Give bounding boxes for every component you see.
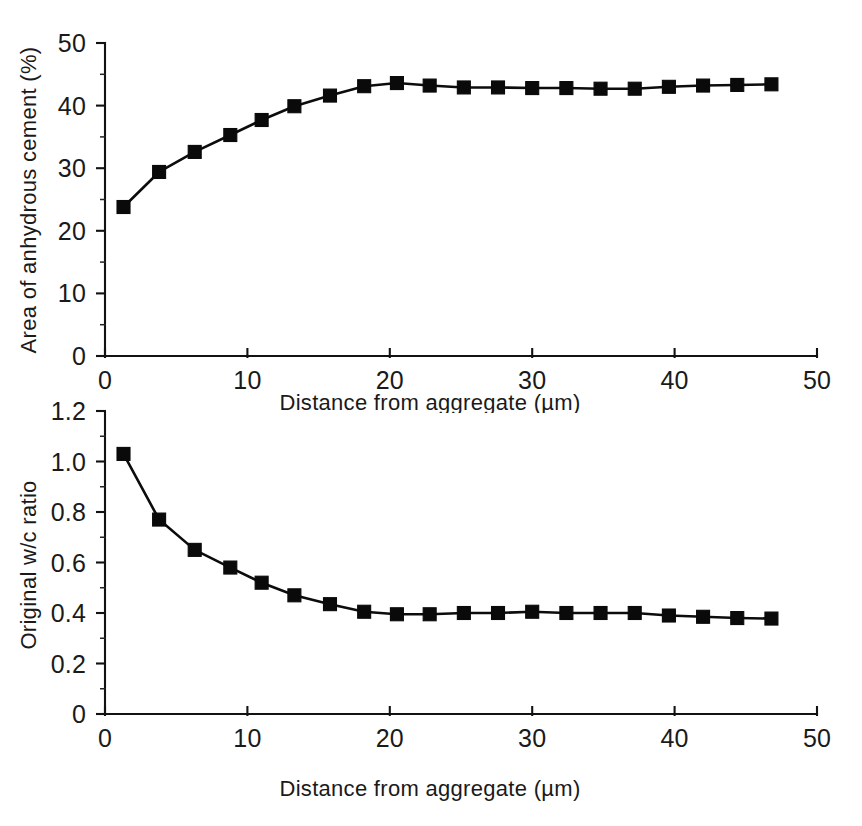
chart-panel-top: 01020304050 01020304050 Area of anhydrou… xyxy=(0,0,862,413)
data-point-marker xyxy=(224,129,237,142)
data-point-marker xyxy=(288,100,301,113)
data-point-marker xyxy=(255,114,268,127)
data-point-marker xyxy=(323,598,336,611)
data-point-marker xyxy=(117,447,130,460)
data-point-marker xyxy=(358,605,371,618)
data-point-marker xyxy=(697,79,710,92)
x-tick-label: 20 xyxy=(376,724,404,752)
y-tick-label: 20 xyxy=(58,217,86,245)
data-point-marker xyxy=(390,608,403,621)
data-point-marker xyxy=(153,165,166,178)
y-tick-label: 30 xyxy=(58,154,86,182)
data-line xyxy=(124,83,772,207)
y-tick-label: 0.2 xyxy=(51,650,86,678)
data-point-marker xyxy=(560,607,573,620)
data-point-marker xyxy=(731,78,744,91)
data-point-marker xyxy=(153,513,166,526)
data-point-marker xyxy=(697,610,710,623)
y-tick-label: 50 xyxy=(58,29,86,57)
y-axis-bottom: 00.20.40.60.81.01.2 xyxy=(51,400,106,728)
x-axis-title: Distance from aggregate (µm) xyxy=(279,776,580,801)
data-point-marker xyxy=(492,81,505,94)
data-point-marker xyxy=(765,612,778,625)
x-tick-label: 0 xyxy=(98,366,112,394)
data-point-marker xyxy=(765,78,778,91)
x-axis-bottom: 01020304050 xyxy=(98,706,831,752)
data-point-marker xyxy=(526,605,539,618)
y-tick-label: 1.0 xyxy=(51,448,86,476)
x-tick-label: 50 xyxy=(803,724,831,752)
data-point-marker xyxy=(526,82,539,95)
data-line xyxy=(124,454,772,619)
data-point-marker xyxy=(390,77,403,90)
data-point-marker xyxy=(323,89,336,102)
data-point-marker xyxy=(628,607,641,620)
x-tick-label: 10 xyxy=(233,366,261,394)
data-point-marker xyxy=(423,608,436,621)
data-markers xyxy=(117,77,778,214)
data-point-marker xyxy=(188,543,201,556)
data-point-marker xyxy=(457,81,470,94)
data-point-marker xyxy=(594,82,607,95)
data-point-marker xyxy=(560,82,573,95)
figure-root: 01020304050 01020304050 Area of anhydrou… xyxy=(0,0,862,826)
x-tick-label: 10 xyxy=(233,724,261,752)
y-tick-label: 1.2 xyxy=(51,400,86,425)
y-tick-label: 0 xyxy=(72,700,86,728)
y-tick-label: 10 xyxy=(58,279,86,307)
y-axis-title: Area of anhydrous cement (%) xyxy=(16,47,41,354)
data-point-marker xyxy=(423,79,436,92)
y-axis-title: Original w/c ratio xyxy=(16,480,41,649)
y-tick-labels: 00.20.40.60.81.01.2 xyxy=(51,400,86,728)
x-tick-labels: 01020304050 xyxy=(98,724,831,752)
data-point-marker xyxy=(224,561,237,574)
series-group-top xyxy=(117,77,778,214)
x-tick-label: 0 xyxy=(98,724,112,752)
y-tick-label: 0.4 xyxy=(51,599,86,627)
data-point-marker xyxy=(594,607,607,620)
data-markers xyxy=(117,447,778,625)
anhydrous-cement-plot: 01020304050 01020304050 Area of anhydrou… xyxy=(0,0,862,413)
data-point-marker xyxy=(492,607,505,620)
data-point-marker xyxy=(628,82,641,95)
y-tick-label: 0.6 xyxy=(51,549,86,577)
x-tick-label: 50 xyxy=(803,366,831,394)
data-point-marker xyxy=(255,576,268,589)
data-point-marker xyxy=(662,80,675,93)
y-tick-label: 0.8 xyxy=(51,498,86,526)
data-point-marker xyxy=(457,607,470,620)
x-tick-label: 40 xyxy=(660,366,688,394)
y-tick-label: 40 xyxy=(58,92,86,120)
data-point-marker xyxy=(731,612,744,625)
data-point-marker xyxy=(358,80,371,93)
wc-ratio-plot: 00.20.40.60.81.01.2 01020304050 Original… xyxy=(0,400,862,826)
y-tick-labels: 01020304050 xyxy=(58,29,86,370)
y-tick-label: 0 xyxy=(72,342,86,370)
data-point-marker xyxy=(662,609,675,622)
chart-panel-bottom: 00.20.40.60.81.01.2 01020304050 Original… xyxy=(0,400,862,826)
y-axis-top: 01020304050 xyxy=(58,29,106,370)
data-point-marker xyxy=(188,145,201,158)
x-tick-label: 40 xyxy=(660,724,688,752)
data-point-marker xyxy=(288,589,301,602)
x-tick-label: 30 xyxy=(518,724,546,752)
x-axis-top: 01020304050 xyxy=(98,348,831,394)
data-point-marker xyxy=(117,201,130,214)
series-group-bottom xyxy=(117,447,778,625)
